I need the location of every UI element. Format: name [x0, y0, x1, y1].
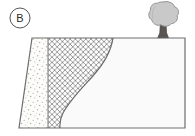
block-diagram: B: [0, 0, 195, 136]
tree-symbol: [149, 2, 179, 38]
panel-label-text: B: [16, 12, 23, 24]
tree-canopy-icon: [149, 2, 179, 27]
stippled-sediment-unit: [19, 38, 48, 128]
figure-root: B: [0, 0, 195, 136]
panel-label-marker: B: [10, 8, 30, 28]
block-body: [0, 36, 195, 130]
